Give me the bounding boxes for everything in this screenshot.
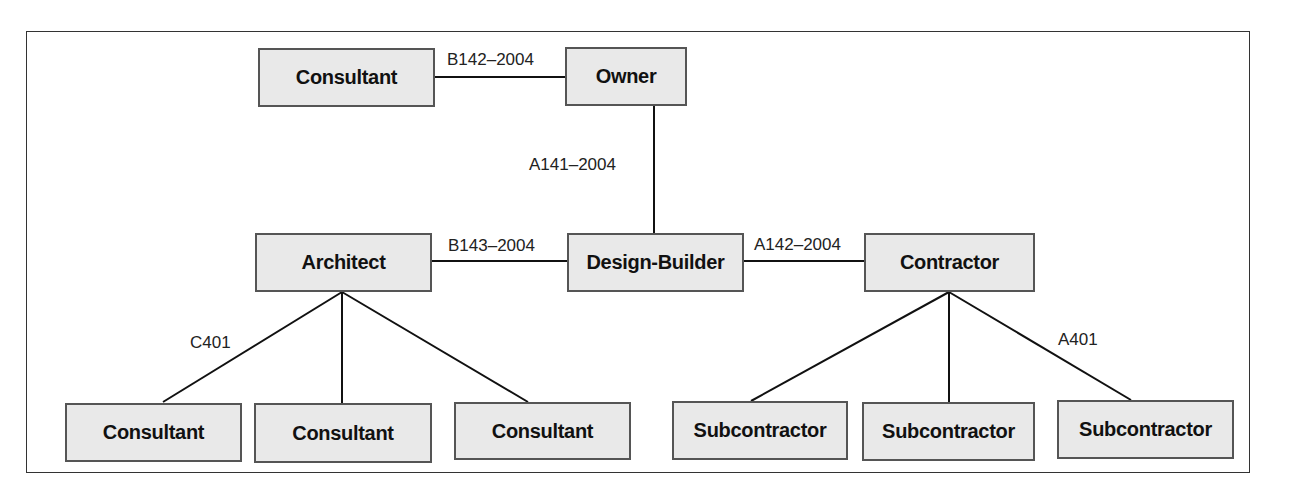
node-consultant-1: Consultant	[65, 403, 242, 462]
label-b142: B142–2004	[447, 50, 534, 70]
node-design-builder: Design-Builder	[567, 233, 744, 292]
node-subcontractor-3: Subcontractor	[1057, 400, 1234, 459]
node-consultant-top: Consultant	[258, 48, 435, 107]
node-subcontractor-1: Subcontractor	[672, 401, 848, 460]
node-consultant-3: Consultant	[454, 402, 631, 460]
label-a142: A142–2004	[754, 235, 841, 255]
label-c401: C401	[190, 333, 231, 353]
label-b143: B143–2004	[448, 236, 535, 256]
edge-contractor-subcontractor-3	[949, 292, 1131, 400]
node-architect: Architect	[255, 233, 432, 292]
label-a141: A141–2004	[529, 155, 616, 175]
node-contractor: Contractor	[864, 233, 1035, 292]
label-a401: A401	[1058, 330, 1098, 350]
node-consultant-2: Consultant	[254, 403, 432, 463]
node-subcontractor-2: Subcontractor	[862, 402, 1035, 461]
node-owner: Owner	[565, 47, 687, 106]
edge-architect-consultant-3	[342, 292, 528, 402]
edge-contractor-subcontractor-1	[751, 292, 949, 401]
